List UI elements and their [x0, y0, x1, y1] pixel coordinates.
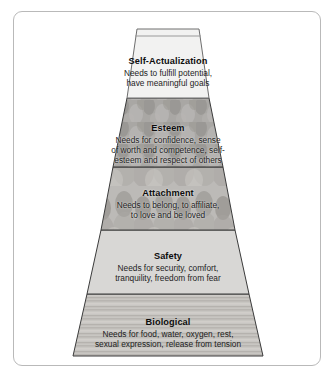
pyramid-shape: [14, 12, 321, 366]
tier-shape-safety: [87, 230, 249, 294]
tier-shape-attachment: [101, 167, 235, 230]
figure-frame: Self-Actualization Needs to fulfill pote…: [13, 11, 321, 366]
tier-shape-self-actualization: [127, 29, 209, 98]
maslow-pyramid: Self-Actualization Needs to fulfill pote…: [14, 12, 321, 366]
tier-shape-esteem: [113, 98, 223, 167]
tier-shape-biological: [73, 294, 263, 356]
